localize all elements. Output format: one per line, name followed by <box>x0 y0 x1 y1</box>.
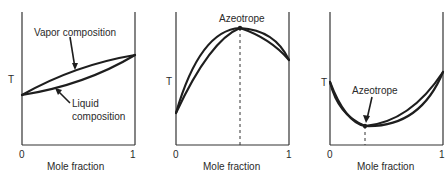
phase-diagrams: Vapor composition Liquid composition T 0… <box>0 0 448 183</box>
x-axis-label: Mole fraction <box>47 161 104 172</box>
y-axis-label: T <box>321 77 327 88</box>
diagram-max-azeotrope: Azeotrope T 0 1 Mole fraction <box>166 12 292 172</box>
azeotrope-label: Azeotrope <box>352 85 398 96</box>
vapor-curve <box>176 28 289 113</box>
liquid-curve <box>22 55 135 95</box>
diagram-min-azeotrope: Azeotrope T 0 1 Mole fraction <box>321 12 445 172</box>
liquid-label-2: composition <box>72 111 125 122</box>
vapor-label: Vapor composition <box>34 27 116 38</box>
x-tick-1: 1 <box>286 149 292 160</box>
diagram-ideal: Vapor composition Liquid composition T 0… <box>8 12 136 172</box>
azeotrope-label: Azeotrope <box>219 13 265 24</box>
x-tick-0: 0 <box>327 149 333 160</box>
arrowhead-icon <box>363 115 370 123</box>
y-axis-label: T <box>166 76 172 87</box>
liquid-label-1: Liquid <box>72 98 99 109</box>
azeotrope-point <box>238 26 242 30</box>
x-tick-1: 1 <box>130 149 136 160</box>
x-tick-0: 0 <box>173 149 179 160</box>
vapor-curve <box>22 55 135 95</box>
x-tick-1: 1 <box>439 149 445 160</box>
x-axis-label: Mole fraction <box>357 161 414 172</box>
azeotrope-point <box>363 124 367 128</box>
liquid-curve <box>330 72 443 126</box>
x-axis-label: Mole fraction <box>203 161 260 172</box>
y-axis-label: T <box>8 74 14 85</box>
x-tick-0: 0 <box>19 149 25 160</box>
